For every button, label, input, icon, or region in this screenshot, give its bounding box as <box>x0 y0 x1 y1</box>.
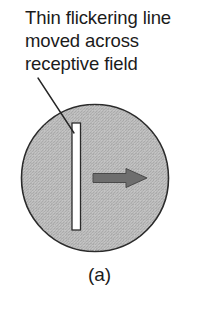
figure-panel-a: Thin flickering line moved across recept… <box>0 0 199 324</box>
stimulus-bar <box>72 123 81 230</box>
panel-label: (a) <box>0 264 199 286</box>
